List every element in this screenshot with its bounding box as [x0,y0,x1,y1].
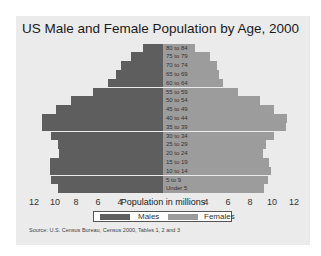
bar-males [59,149,163,158]
bar-males [108,79,163,88]
bar-males [71,96,163,105]
x-tick-label: 8 [73,197,78,207]
age-group-label: 15 to 19 [166,158,188,167]
x-tick-label: 8 [247,197,252,207]
age-group-label: 25 to 29 [166,140,188,149]
legend-label-males: Males [138,212,159,222]
bar-males [50,167,163,176]
age-group-label: 5 to 9 [166,176,181,185]
x-tick-label: 10 [50,197,60,207]
bar-males [93,88,163,97]
bar-males [121,61,163,70]
bar-males [51,132,163,141]
bar-males [58,184,163,193]
source-note: Source: U.S. Census Bureau, Census 2000,… [29,227,180,233]
x-tick-label: 12 [289,197,299,207]
age-group-label: 50 to 54 [166,96,188,105]
age-group-label: 80 to 84 [166,44,188,53]
legend: Males Females [93,211,232,222]
age-group-label: 30 to 34 [166,132,188,141]
bar-males [116,70,163,79]
age-group-label: 45 to 49 [166,105,188,114]
bar-males [143,44,163,53]
bar-males [58,140,163,149]
age-group-label: 70 to 74 [166,61,188,70]
legend-label-females: Females [204,212,235,222]
legend-swatch-females [168,214,198,220]
age-group-label: 55 to 59 [166,88,188,97]
bar-males [42,123,163,132]
legend-swatch-males [100,214,130,220]
age-group-label: 40 to 44 [166,114,188,123]
x-tick-label: 10 [267,197,277,207]
age-group-label: 10 to 14 [166,167,188,176]
bar-males [42,114,163,123]
x-tick-label: 6 [95,197,100,207]
age-group-label: 35 to 39 [166,123,188,132]
age-group-label: Under 5 [166,184,187,193]
age-group-label: 65 to 69 [166,70,188,79]
x-tick-label: 12 [29,197,39,207]
age-group-label: 60 to 64 [166,79,188,88]
age-group-label: 20 to 24 [166,149,188,158]
x-tick-label: 6 [225,197,230,207]
bar-males [51,176,163,185]
bar-males [131,52,163,61]
x-axis-label: Population in millions [121,197,206,207]
bar-males [50,158,163,167]
age-group-label: 75 to 79 [166,52,188,61]
bar-males [56,105,164,114]
